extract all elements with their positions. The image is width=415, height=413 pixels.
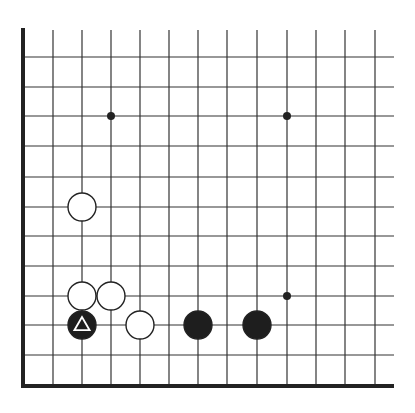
star-point	[283, 292, 291, 300]
star-point	[107, 112, 115, 120]
go-board	[0, 0, 415, 413]
white-stone	[126, 311, 154, 339]
star-point	[283, 112, 291, 120]
star-points	[107, 112, 291, 300]
black-stone	[184, 311, 212, 339]
black-stone	[243, 311, 271, 339]
white-stone	[68, 282, 96, 310]
white-stone	[97, 282, 125, 310]
white-stone	[68, 193, 96, 221]
